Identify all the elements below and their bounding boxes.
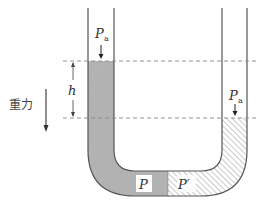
arrow-down-icon xyxy=(99,45,104,59)
height-dimension: h xyxy=(68,62,76,117)
height-label: h xyxy=(68,83,76,98)
svg-text:P: P xyxy=(228,88,238,103)
svg-text:P: P xyxy=(94,26,104,41)
u-tube-diagram: P a P a h 重力 P P′ xyxy=(0,0,267,207)
atm-pressure-left-label: P a xyxy=(94,26,109,43)
svg-text:a: a xyxy=(238,96,243,105)
gravity-label: 重力 xyxy=(9,98,33,112)
tube-inner-wall xyxy=(114,8,222,171)
svg-text:a: a xyxy=(104,34,109,43)
pressure-right-label: P′ xyxy=(177,177,190,192)
gravity-arrow-icon xyxy=(44,89,49,132)
pressure-left-label: P xyxy=(138,177,148,192)
arrow-down-icon xyxy=(233,104,238,116)
atm-pressure-right-label: P a xyxy=(228,88,243,105)
